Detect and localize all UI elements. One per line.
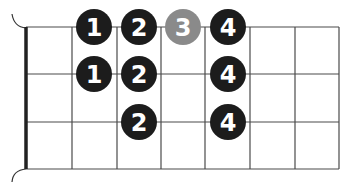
svg-text:1: 1 <box>86 14 103 42</box>
svg-text:4: 4 <box>220 109 237 137</box>
finger-dot: 4 <box>210 104 246 140</box>
finger-dot: 2 <box>121 9 157 45</box>
fretboard-diagram: 1 2 3 4 1 2 4 2 4 <box>0 0 352 186</box>
finger-dot: 1 <box>76 9 112 45</box>
finger-dot: 4 <box>210 9 246 45</box>
fret-lines <box>26 27 339 169</box>
svg-text:2: 2 <box>131 109 148 137</box>
finger-dot: 2 <box>121 56 157 92</box>
bottom-curl <box>12 169 26 182</box>
svg-text:4: 4 <box>220 61 237 89</box>
top-curl <box>12 14 26 28</box>
svg-text:3: 3 <box>175 14 192 42</box>
svg-text:4: 4 <box>220 14 237 42</box>
svg-text:1: 1 <box>86 61 103 89</box>
svg-text:2: 2 <box>131 61 148 89</box>
finger-dot: 4 <box>210 56 246 92</box>
string-lines <box>26 27 339 169</box>
finger-dot: 1 <box>76 56 112 92</box>
finger-dot: 3 <box>165 9 201 45</box>
svg-text:2: 2 <box>131 14 148 42</box>
finger-dot: 2 <box>121 104 157 140</box>
